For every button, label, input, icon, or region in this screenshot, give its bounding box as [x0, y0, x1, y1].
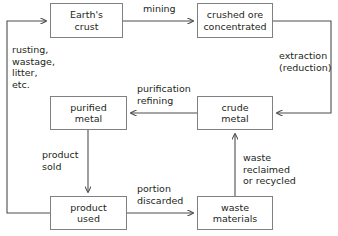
node-waste-materials-line2: materials [213, 213, 258, 225]
edge-label-rusting-line1: rusting, [12, 44, 55, 56]
node-purified-metal: purified metal [50, 96, 127, 130]
edge-label-product-sold-line2: sold [42, 161, 79, 173]
edge-label-mining: mining [143, 3, 176, 15]
node-product-used: product used [50, 196, 127, 230]
node-earths-crust-line2: crust [75, 21, 99, 33]
edge-label-extraction-line2: (reduction) [279, 62, 331, 74]
edge-label-rusting: rusting, wastage, litter, etc. [12, 44, 55, 90]
edge-label-extraction: extraction (reduction) [279, 50, 331, 73]
edge-label-waste-recl-line1: waste [243, 152, 296, 164]
node-purified-metal-line1: purified [70, 102, 106, 114]
node-crude-metal: crude metal [197, 96, 273, 130]
metal-lifecycle-diagram: Earth's crust crushed ore concentrated p… [0, 0, 338, 236]
node-crushed-ore-line2: concentrated [203, 21, 266, 33]
edge-label-mining-line1: mining [143, 3, 176, 15]
node-product-used-line1: product [70, 202, 107, 214]
node-crushed-ore-line1: crushed ore [207, 9, 263, 21]
node-purified-metal-line2: metal [75, 113, 102, 125]
node-earths-crust: Earth's crust [50, 3, 123, 38]
node-crude-metal-line2: metal [221, 113, 248, 125]
edge-label-rusting-line2: wastage, [12, 56, 55, 68]
node-crushed-ore: crushed ore concentrated [197, 3, 273, 38]
edge-label-waste-reclaimed: waste reclaimed or recycled [243, 152, 296, 187]
edge-label-waste-recl-line2: reclaimed [243, 164, 296, 176]
node-earths-crust-line1: Earth's [70, 9, 103, 21]
edge-label-portion-line2: discarded [137, 195, 183, 207]
edge-label-portion-line1: portion [137, 183, 183, 195]
edge-label-purification: purification refining [137, 83, 191, 106]
edge-label-purification-line2: refining [137, 95, 191, 107]
edge-label-rusting-line3: litter, [12, 67, 55, 79]
node-waste-materials: waste materials [197, 196, 273, 230]
node-crude-metal-line1: crude [221, 102, 248, 114]
edge-label-extraction-line1: extraction [279, 50, 331, 62]
edge-label-product-sold: product sold [42, 149, 79, 172]
edge-label-rusting-line4: etc. [12, 79, 55, 91]
edge-label-portion-discarded: portion discarded [137, 183, 183, 206]
edge-label-product-sold-line1: product [42, 149, 79, 161]
edge-label-purification-line1: purification [137, 83, 191, 95]
node-waste-materials-line1: waste [221, 202, 249, 214]
edge-label-waste-recl-line3: or recycled [243, 175, 296, 187]
node-product-used-line2: used [77, 213, 100, 225]
